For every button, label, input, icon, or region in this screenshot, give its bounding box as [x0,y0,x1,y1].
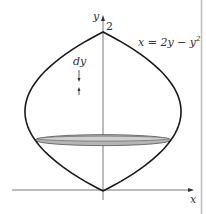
dy-label: dy [73,55,87,68]
y-tick-label-2: 2 [106,20,113,33]
y-axis-arrow-icon [101,15,105,21]
disk-top-face [37,136,169,141]
x-axis-arrow-icon [188,188,194,192]
equation-exponent: 2 [195,35,201,43]
dy-arrow-down-icon [78,78,81,82]
equation-text: x = 2y − y [138,36,197,49]
y-axis-label: y [92,10,100,23]
disk-slice [35,135,171,146]
x-axis-label: x [190,193,197,206]
equation-label: x = 2y − y2 [138,35,201,49]
dy-arrow-up-icon [78,87,81,91]
diagram-canvas: x y 2 dy x = 2y − y2 [0,0,206,214]
